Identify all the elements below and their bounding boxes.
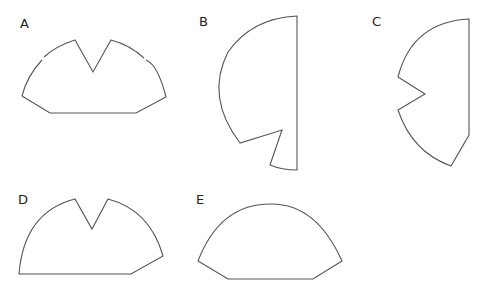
shape-c [398,19,469,166]
shape-a [22,40,166,113]
shape-b [219,16,297,170]
shape-e [198,204,342,279]
shape-d [19,199,163,274]
shapes-canvas [0,0,487,294]
